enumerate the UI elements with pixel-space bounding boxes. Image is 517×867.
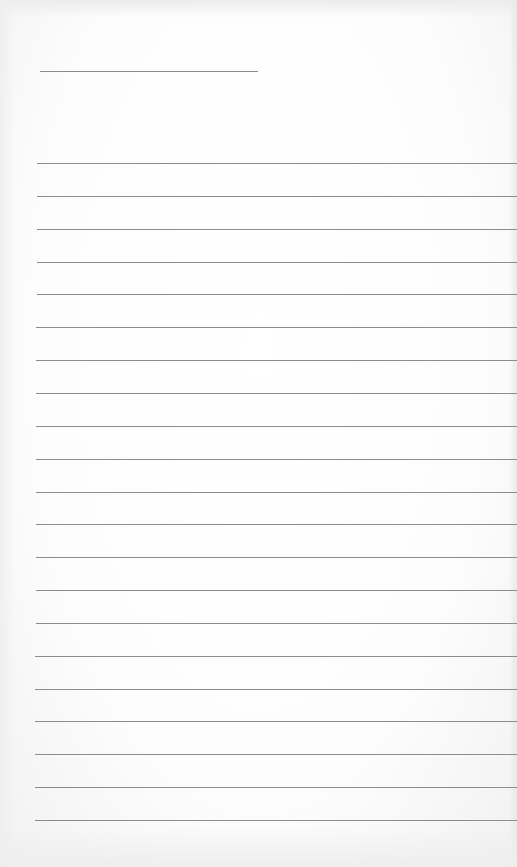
ruled-line [36,426,517,427]
ruled-line-text [36,505,517,525]
ruled-line [36,492,517,493]
ruled-line-text [36,308,517,328]
ruled-line-text [35,801,517,821]
ruled-line-text [36,374,517,394]
ruled-line-text [36,571,517,591]
ruled-line [36,360,517,361]
ruled-line-text [35,702,517,722]
ruled-line-text [35,637,517,657]
ruled-line [37,163,517,164]
page-shadow-left [0,0,14,867]
ruled-line [36,623,517,624]
ruled-line [35,754,517,755]
ruled-line [35,820,517,821]
ruled-line-text [36,604,517,624]
ruled-line-text [36,440,517,460]
ruled-line-text [37,210,517,230]
ruled-line-text [37,177,517,197]
ruled-line [35,689,517,690]
ruled-line-text [36,538,517,558]
ruled-line [37,262,517,263]
ruled-line [36,557,517,558]
ruled-line-text [37,144,517,164]
title-text [40,50,258,70]
ruled-line [35,787,517,788]
ruled-line [37,196,517,197]
ruled-line-text [36,341,517,361]
ruled-line-text [35,768,517,788]
ruled-line-text [36,473,517,493]
ruled-line [36,590,517,591]
ruled-line [36,459,517,460]
lined-paper-page [0,0,517,867]
ruled-line [36,327,517,328]
ruled-line-text [37,243,517,263]
ruled-line-text [36,407,517,427]
ruled-line-text [37,275,517,295]
ruled-line [35,656,517,657]
ruled-line-text [35,670,517,690]
title-line [40,71,258,72]
page-shadow-bottom [0,827,517,867]
ruled-line [36,524,517,525]
ruled-line [36,393,517,394]
ruled-line [37,229,517,230]
ruled-line [35,721,517,722]
page-shadow-top [0,0,517,18]
ruled-line-text [35,735,517,755]
ruled-line [37,294,517,295]
